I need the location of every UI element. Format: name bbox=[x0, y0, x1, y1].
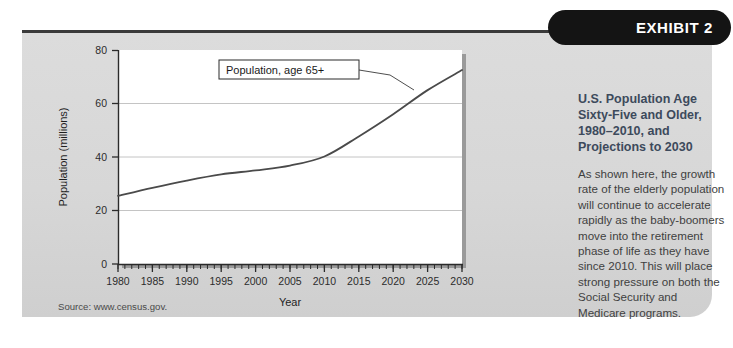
x-tick-2010: 2010 bbox=[313, 275, 337, 287]
y-tick-80: 80 bbox=[95, 44, 107, 56]
x-axis-title: Year bbox=[279, 296, 302, 308]
y-ticks bbox=[112, 51, 118, 265]
exhibit-figure: 0 20 40 60 80 19801985199019952000200520… bbox=[0, 0, 733, 348]
y-tick-0: 0 bbox=[101, 258, 107, 270]
annotation-label: Population, age 65+ bbox=[226, 64, 324, 76]
x-tick-2005: 2005 bbox=[278, 275, 302, 287]
x-tick-2025: 2025 bbox=[416, 275, 440, 287]
x-tick-labels: 1980198519901995200020052010201520202025… bbox=[106, 275, 474, 287]
x-tick-1990: 1990 bbox=[175, 275, 199, 287]
y-tick-labels: 0 20 40 60 80 bbox=[95, 44, 107, 270]
x-tick-2020: 2020 bbox=[382, 275, 406, 287]
population-line-chart: 0 20 40 60 80 19801985199019952000200520… bbox=[22, 33, 552, 320]
exhibit-badge: EXHIBIT 2 bbox=[548, 10, 731, 45]
exhibit-badge-label: EXHIBIT 2 bbox=[636, 19, 713, 36]
y-tick-20: 20 bbox=[95, 204, 107, 216]
exhibit-title: U.S. Population Age Sixty-Five and Older… bbox=[578, 91, 728, 155]
y-axis-title: Population (millions) bbox=[57, 107, 69, 206]
exhibit-description: As shown here, the growth rate of the el… bbox=[578, 166, 728, 320]
x-tick-1985: 1985 bbox=[141, 275, 165, 287]
x-tick-2000: 2000 bbox=[244, 275, 268, 287]
x-tick-2015: 2015 bbox=[347, 275, 371, 287]
x-tick-2030: 2030 bbox=[450, 275, 474, 287]
y-tick-40: 40 bbox=[95, 151, 107, 163]
source-note: Source: www.census.gov. bbox=[58, 301, 167, 312]
chart-region: 0 20 40 60 80 19801985199019952000200520… bbox=[22, 33, 552, 320]
exhibit-card: 0 20 40 60 80 19801985199019952000200520… bbox=[22, 30, 712, 317]
x-tick-1980: 1980 bbox=[106, 275, 130, 287]
x-tick-1995: 1995 bbox=[210, 275, 234, 287]
description-panel: U.S. Population Age Sixty-Five and Older… bbox=[578, 91, 728, 320]
y-tick-60: 60 bbox=[95, 97, 107, 109]
